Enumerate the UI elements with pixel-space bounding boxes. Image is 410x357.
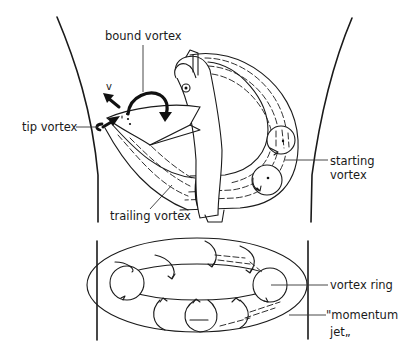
right-flow-boundary-upper xyxy=(311,18,352,222)
label-starting-vortex-line2: vortex xyxy=(330,168,367,182)
label-starting-vortex-line1: starting xyxy=(330,154,375,168)
leader-trailing-vortex xyxy=(150,185,172,209)
label-trailing-vortex: trailing vortex xyxy=(110,209,191,223)
diagram-canvas: bound vortex v tip vortex starting vorte… xyxy=(0,0,410,357)
velocity-arrow xyxy=(103,93,119,107)
vortex-diagram: bound vortex v tip vortex starting vorte… xyxy=(0,0,410,357)
label-vortex-ring: vortex ring xyxy=(330,278,393,292)
label-momentum-jet-line2: jet„ xyxy=(329,325,351,339)
bird-body xyxy=(175,50,224,222)
label-momentum-jet-line1: "momentum xyxy=(326,308,398,322)
label-tip-vortex: tip vortex xyxy=(22,120,78,134)
label-velocity: v xyxy=(106,81,112,92)
starting-vortex xyxy=(252,126,295,195)
label-bound-vortex: bound vortex xyxy=(105,29,182,43)
